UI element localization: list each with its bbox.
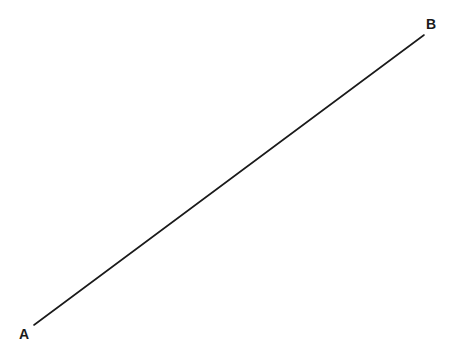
figure-canvas: A B: [0, 0, 464, 358]
point-label-a: A: [19, 327, 29, 341]
point-label-b: B: [426, 17, 436, 31]
line-diagram: [0, 0, 464, 358]
canvas-background: [0, 0, 464, 358]
